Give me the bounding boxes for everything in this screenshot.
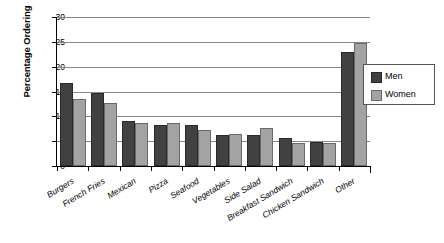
x-axis-line <box>56 166 371 167</box>
bar-group <box>247 17 273 166</box>
bar-men <box>216 135 229 166</box>
bar-men <box>122 121 135 166</box>
bar-group <box>279 17 305 166</box>
x-axis-right-cap <box>370 166 371 173</box>
bar-group <box>60 17 86 166</box>
bar-men <box>91 93 104 166</box>
legend-label-women: Women <box>385 88 416 100</box>
bar-chart: Percentage Ordering 051015202530 Burgers… <box>0 0 444 243</box>
plot-area <box>57 17 370 166</box>
bar-women <box>198 130 211 166</box>
bar-men <box>60 83 73 166</box>
bar-men <box>341 52 354 166</box>
bar-women <box>73 99 86 166</box>
bar-women <box>260 128 273 166</box>
y-axis-title: Percentage Ordering <box>21 0 32 122</box>
bar-group <box>91 17 117 166</box>
legend-label-men: Men <box>385 70 403 82</box>
bar-women <box>135 123 148 166</box>
legend: Men Women <box>363 64 435 105</box>
bar-men <box>185 125 198 166</box>
bar-men <box>279 138 292 166</box>
bar-women <box>104 103 117 166</box>
bar-women <box>167 123 180 166</box>
bar-men <box>247 135 260 166</box>
bar-group <box>154 17 180 166</box>
bar-group <box>310 17 336 166</box>
bar-group <box>185 17 211 166</box>
y-axis-line <box>56 17 57 167</box>
bar-group <box>122 17 148 166</box>
bar-men <box>154 125 167 166</box>
bar-women <box>292 143 305 166</box>
bar-men <box>310 142 323 166</box>
legend-swatch-women-icon <box>371 90 382 101</box>
bar-women <box>229 134 242 166</box>
bar-group <box>216 17 242 166</box>
bar-women <box>323 143 336 166</box>
legend-swatch-men-icon <box>371 72 382 83</box>
